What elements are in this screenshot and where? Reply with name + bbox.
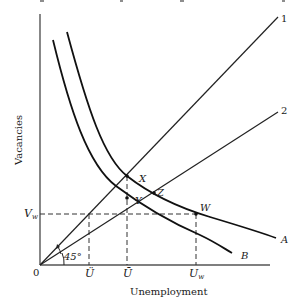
tick-u-hat: Ü (85, 266, 95, 280)
header-fragment (0, 0, 299, 3)
curve-a (67, 32, 276, 238)
point-w (194, 212, 198, 216)
point-x (125, 174, 129, 178)
point-y (125, 196, 129, 200)
point-z-label: Z (156, 187, 165, 198)
x-axis-label: Unemployment (130, 286, 207, 297)
point-w-label: W (200, 202, 211, 213)
tick-u-w: Uw (189, 267, 204, 281)
point-z (152, 191, 156, 195)
tick-u-bar: Ū (123, 267, 133, 280)
point-x-label: X (138, 173, 147, 184)
tick-v-w: Vw (24, 207, 38, 221)
y-axis-label: Vacancies (13, 115, 24, 166)
curve-b-label: B (240, 250, 248, 261)
curve-b (53, 40, 232, 253)
angle-label: 45° (63, 251, 82, 262)
origin-label: 0 (33, 267, 39, 278)
curve-a-label: A (280, 234, 288, 245)
line-1-label: 1 (281, 13, 287, 24)
beveridge-diagram: 0 45° Ü Ū Uw Vw Unemployment Vacancies 1… (0, 0, 299, 304)
line-2-label: 2 (281, 105, 287, 116)
line-1 (40, 17, 278, 265)
